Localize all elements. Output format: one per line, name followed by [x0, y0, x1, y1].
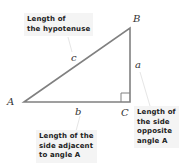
opposite-note: Length of the side opposite angle A [134, 106, 179, 148]
hypotenuse-note-line-2: the hypotenuse [27, 25, 90, 35]
opposite-note-line-3: opposite [137, 127, 176, 137]
hypotenuse-note: Length of the hypotenuse [24, 13, 93, 36]
side-label-adjacent: b [75, 107, 81, 117]
adjacent-note-line-3: to angle A [39, 151, 94, 161]
side-label-opposite: a [135, 60, 141, 70]
vertex-label-b: B [133, 14, 140, 24]
vertex-label-c: C [121, 108, 129, 118]
side-label-hypotenuse: c [71, 53, 77, 63]
opposite-note-line-4: angle A [137, 137, 176, 147]
adjacent-note: Length of the side adjacent to angle A [36, 130, 97, 163]
adjacent-note-line-1: Length of the [39, 132, 94, 142]
triangle-outline [24, 28, 130, 102]
opposite-note-line-2: the side [137, 118, 176, 128]
hypotenuse-note-line-1: Length of [27, 15, 90, 25]
opposite-leader-line [140, 72, 150, 106]
adjacent-note-line-2: side adjacent [39, 142, 94, 152]
adjacent-leader-line [76, 116, 80, 131]
right-angle-marker [121, 93, 130, 102]
vertex-label-a: A [7, 97, 14, 107]
opposite-note-line-1: Length of [137, 108, 176, 118]
hypotenuse-leader-line [68, 37, 72, 52]
right-triangle-diagram: B A C c a b Length of the hypotenuse Len… [0, 0, 183, 166]
